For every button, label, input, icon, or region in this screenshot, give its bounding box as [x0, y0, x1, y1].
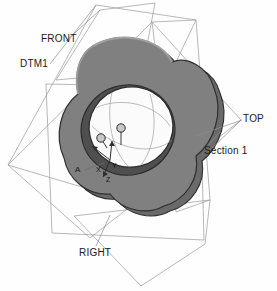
axis-label-z: Z [106, 176, 110, 183]
datum-tag-a[interactable]: A [75, 165, 81, 174]
cad-viewport[interactable]: FRONT DTM1 TOP RIGHT Section 1 A X Y Z [0, 0, 277, 291]
axis-label-y: Y [112, 162, 117, 169]
datum-label-front[interactable]: FRONT [41, 33, 76, 44]
datum-label-dtm1[interactable]: DTM1 [20, 58, 48, 69]
datum-label-top[interactable]: TOP [243, 113, 264, 124]
datum-label-right[interactable]: RIGHT [79, 247, 111, 258]
axis-label-x: X [96, 166, 101, 173]
section-label[interactable]: Section 1 [204, 145, 248, 156]
